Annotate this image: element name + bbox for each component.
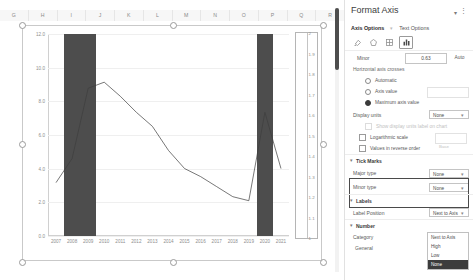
logarithmic-scale-row[interactable]: Logarithmic scale Base	[345, 132, 473, 143]
secondary-y-axis-tick-label: 1.7	[309, 92, 315, 97]
label-position-option[interactable]: Next to Axis	[428, 233, 468, 242]
pane-scrollbar-thumb[interactable]	[335, 8, 339, 70]
column-header-h[interactable]: H	[29, 10, 58, 21]
label-position-dropdown-list[interactable]: Next to AxisHighLowNone	[427, 232, 469, 270]
minor-unit-row[interactable]: Minor 0.63 Auto	[345, 51, 473, 64]
format-axis-pane[interactable]: Format Axis ▾ ⋮ Axis Options ▾ Text Opti…	[344, 0, 473, 280]
label-position-value: Next to Axis	[433, 211, 458, 216]
effects-icon[interactable]	[367, 37, 379, 48]
label-position-option[interactable]: None	[428, 260, 468, 269]
secondary-y-axis-tick-label: 1.6	[309, 113, 315, 118]
x-axis-tick-label: 2021	[276, 239, 286, 244]
minor-unit-auto-button[interactable]: Auto	[450, 53, 469, 62]
tab-text-options[interactable]: Text Options	[399, 25, 429, 31]
reverse-order-checkbox[interactable]	[359, 145, 366, 152]
show-units-label-checkbox[interactable]	[365, 123, 372, 130]
chevron-down-icon: ▾	[461, 209, 464, 218]
secondary-axis-line	[307, 33, 308, 238]
column-header-p[interactable]: P	[259, 10, 288, 21]
secondary-y-axis-tick-label: 1.5	[309, 133, 315, 138]
tab-axis-options[interactable]: Axis Options	[351, 25, 384, 31]
radio-maximum-axis-value[interactable]: Maximum axis value	[345, 97, 473, 108]
x-axis-tick-label: 2015	[179, 239, 189, 244]
chevron-down-icon[interactable]: ▾	[350, 198, 353, 203]
x-axis-tick-label: 2013	[147, 239, 157, 244]
minor-tick-type-dropdown[interactable]: None ▾	[429, 183, 469, 192]
column-header-n[interactable]: N	[201, 10, 230, 21]
column-header-r[interactable]: R	[316, 10, 345, 21]
fill-line-icon[interactable]	[351, 37, 363, 48]
chevron-down-icon[interactable]: ▾	[350, 223, 353, 228]
column-header-row[interactable]: GHIJKLMNOPQR	[0, 10, 345, 21]
radio-axis-value-marker[interactable]	[365, 89, 371, 95]
radio-automatic-marker[interactable]	[365, 78, 371, 84]
radio-axis-value[interactable]: Axis value	[345, 86, 473, 97]
more-options-icon[interactable]: ⋮	[460, 7, 467, 15]
pane-tab-row[interactable]: Axis Options ▾ Text Options	[345, 22, 473, 34]
secondary-y-axis-tick-label: 1.3	[309, 174, 315, 179]
labels-group-header[interactable]: ▾ Labels	[345, 194, 473, 206]
major-tick-type-row[interactable]: Major type None ▾	[345, 166, 473, 180]
column-header-l[interactable]: L	[144, 10, 173, 21]
secondary-y-axis-tick-label: 2	[309, 31, 311, 36]
chevron-down-icon: ▾	[461, 170, 464, 179]
column-header-q[interactable]: Q	[288, 10, 317, 21]
y-axis-tick-label: 10.0	[36, 65, 45, 70]
secondary-y-axis-tick-label: 1	[309, 236, 311, 241]
selection-handle-mr[interactable]	[320, 141, 327, 148]
label-position-row[interactable]: Label Position Next to Axis ▾	[345, 206, 473, 219]
secondary-y-axis-tick-label: 1.1	[309, 215, 315, 220]
chart-plot-area[interactable]: 0.02.04.06.08.010.012.0 2007200820092010…	[48, 34, 289, 236]
show-units-label-row[interactable]: Show display units label on chart	[345, 121, 473, 132]
spreadsheet-area[interactable]: GHIJKLMNOPQR 0.02.04.06.08.010.012.0 200…	[0, 0, 345, 280]
secondary-y-axis-tick-label: 1.8	[309, 72, 315, 77]
chevron-down-icon[interactable]: ▾	[454, 9, 457, 16]
secondary-axis-selected[interactable]: 11.11.21.31.41.51.61.71.81.92	[295, 32, 318, 239]
column-header-i[interactable]: I	[58, 10, 87, 21]
selection-handle-tr[interactable]	[320, 22, 327, 29]
selection-handle-bl[interactable]	[19, 259, 26, 266]
x-axis-tick-label: 2014	[163, 239, 173, 244]
tick-marks-title: Tick Marks	[356, 158, 382, 164]
radio-maximum-axis-value-marker[interactable]	[365, 100, 371, 106]
number-title: Number	[356, 223, 375, 229]
minor-unit-input[interactable]: 0.63	[405, 53, 447, 64]
minor-unit-label: Minor	[357, 55, 370, 61]
label-position-option[interactable]: Low	[428, 251, 468, 260]
pane-title: Format Axis	[351, 5, 399, 15]
minor-tick-type-row[interactable]: Minor type None ▾	[345, 180, 473, 194]
y-axis-tick-label: 4.0	[39, 166, 45, 171]
column-header-k[interactable]: K	[115, 10, 144, 21]
label-position-dropdown[interactable]: Next to Axis ▾	[429, 208, 469, 217]
selection-handle-tc[interactable]	[170, 22, 177, 29]
display-units-dropdown[interactable]: None ▾	[429, 110, 469, 119]
x-axis-tick-label: 2020	[260, 239, 270, 244]
axis-options-icon[interactable]	[399, 36, 413, 49]
column-header-g[interactable]: G	[0, 10, 29, 21]
chart-object[interactable]: 0.02.04.06.08.010.012.0 2007200820092010…	[22, 25, 322, 261]
column-header-j[interactable]: J	[86, 10, 115, 21]
radio-automatic[interactable]: Automatic	[345, 75, 473, 86]
selection-handle-tl[interactable]	[19, 22, 26, 29]
label-position-option[interactable]: High	[428, 242, 468, 251]
x-axis-tick-label: 2008	[67, 239, 77, 244]
number-group-header[interactable]: ▾ Number	[345, 219, 473, 231]
tick-marks-group-header[interactable]: ▾ Tick Marks	[345, 154, 473, 166]
selection-handle-bc[interactable]	[170, 259, 177, 266]
logarithmic-scale-label: Logarithmic scale	[370, 135, 408, 140]
size-properties-icon[interactable]	[383, 37, 395, 48]
column-header-o[interactable]: O	[230, 10, 259, 21]
chevron-down-icon[interactable]: ▾	[350, 158, 353, 163]
column-header-m[interactable]: M	[173, 10, 202, 21]
major-tick-type-dropdown[interactable]: None ▾	[429, 169, 469, 178]
reverse-order-row[interactable]: Values in reverse order	[345, 143, 473, 154]
selection-handle-ml[interactable]	[19, 141, 26, 148]
x-axis-tick-label: 2010	[99, 239, 109, 244]
pane-icon-row[interactable]	[345, 34, 473, 51]
y-axis-tick-label: 0.0	[39, 234, 45, 239]
labels-title: Labels	[356, 198, 372, 204]
logarithmic-scale-checkbox[interactable]	[359, 134, 366, 141]
excel-chart-format-screen: GHIJKLMNOPQR 0.02.04.06.08.010.012.0 200…	[0, 0, 473, 280]
selection-handle-br[interactable]	[320, 259, 327, 266]
display-units-row[interactable]: Display units None ▾	[345, 108, 473, 121]
